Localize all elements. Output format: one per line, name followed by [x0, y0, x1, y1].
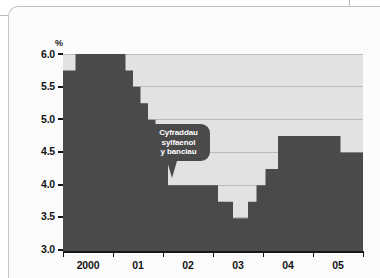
x-axis-tick-end [363, 251, 364, 257]
x-axis-tick-2003 [213, 251, 214, 257]
y-axis-label-6-0: 6.0 [15, 48, 55, 60]
base-rate-step-area [63, 54, 363, 251]
callout-line-1: Cyfraddau [151, 128, 206, 138]
x-axis-tick-2005 [313, 251, 314, 257]
x-axis-label-04: 04 [265, 259, 311, 271]
y-axis-label-3-0: 3.0 [15, 243, 55, 255]
y-axis-label-4-0: 4.0 [15, 178, 55, 190]
x-axis-label-02: 02 [165, 259, 211, 271]
x-axis-tick-2001 [113, 251, 114, 257]
x-axis-label-01: 01 [115, 259, 161, 271]
chart-container: % 6.0 5.5 5.0 4.5 4.0 3.5 3.0 [14, 14, 359, 266]
callout-line-3: y banciau [151, 147, 206, 157]
series-callout: Cyfraddau sylfaenol y banciau [147, 124, 210, 161]
callout-tail [167, 161, 177, 178]
x-axis-label-2000: 2000 [65, 259, 111, 271]
y-axis-label-5-0: 5.0 [15, 113, 55, 125]
x-axis-tick-2004 [263, 251, 264, 257]
callout-line-2: sylfaenol [151, 138, 206, 148]
x-axis-label-05: 05 [315, 259, 361, 271]
plot-area [63, 54, 363, 251]
y-axis-label-3-5: 3.5 [15, 210, 55, 222]
y-axis-label-4-5: 4.5 [15, 145, 55, 157]
y-axis-label-5-5: 5.5 [15, 80, 55, 92]
y-axis-unit-label: % [55, 38, 63, 48]
x-axis-label-03: 03 [215, 259, 261, 271]
x-axis-tick-start [63, 251, 64, 257]
x-axis-tick-2002 [163, 251, 164, 257]
